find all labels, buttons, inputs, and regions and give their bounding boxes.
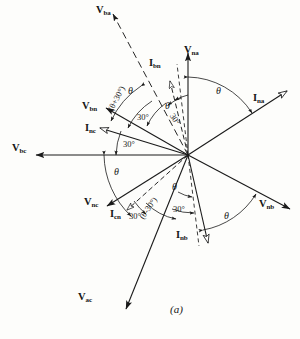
phasor-vectors <box>36 14 290 309</box>
phasor-diagram-figure: Vba Vna Ibn Ina Vbn Inc Vbc Vnc Icn Vac … <box>0 0 300 339</box>
label-v-ac: Vac <box>78 291 92 304</box>
phasor-vector-canvas <box>0 0 300 339</box>
angle-theta-upper-right: θ <box>165 100 170 111</box>
angle-theta-na-ina: θ <box>216 85 221 96</box>
label-v-bn: Vbn <box>82 100 97 113</box>
angle-theta-lower-center: θ <box>172 181 177 192</box>
label-i-bn: Ibn <box>149 57 160 70</box>
vector-v-nb <box>188 155 290 209</box>
vector-i-nc <box>100 128 188 155</box>
angle-30-left: 30° <box>123 139 135 149</box>
label-v-nb: Vnb <box>259 198 274 211</box>
angle-30-upper-mid: 30° <box>137 112 149 122</box>
arc-theta-lower-center <box>178 192 192 197</box>
label-v-nc: Vnc <box>84 196 98 209</box>
arc-30-upper-mid <box>147 103 166 126</box>
arc-theta-inb-vnb <box>203 194 256 230</box>
angle-theta-inb-vnb: θ <box>224 210 229 221</box>
vector-i-na <box>188 91 287 155</box>
label-i-na: Ina <box>253 92 264 105</box>
label-i-nc: Inc <box>85 122 96 135</box>
label-i-cn: Icn <box>110 208 121 221</box>
angle-theta-bc-nc: θ <box>114 166 119 177</box>
arc-theta-bc-nc <box>104 155 131 216</box>
angle-theta-ba-bn: θ <box>128 85 133 96</box>
angle-30-lower-mid: 30° <box>173 204 185 214</box>
label-i-nb: Inb <box>176 229 187 242</box>
label-v-ba: Vba <box>96 4 111 17</box>
label-v-na: Vna <box>184 44 199 57</box>
label-v-bc: Vbc <box>12 142 26 155</box>
figure-caption: (a) <box>170 303 183 315</box>
